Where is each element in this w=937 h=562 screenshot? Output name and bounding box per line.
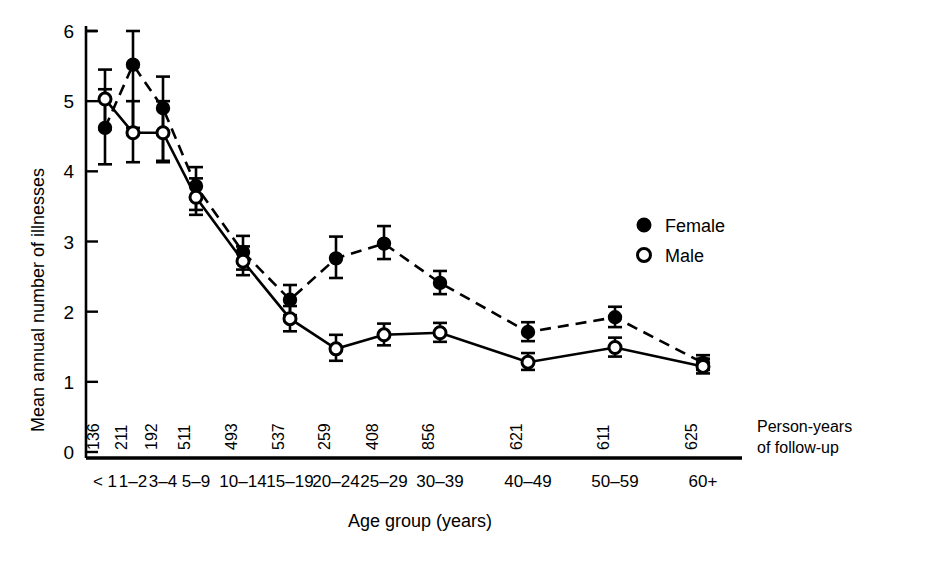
x-category-label: 60+ [689, 472, 718, 491]
x-axis-label: Age group (years) [348, 511, 492, 531]
data-point-female [609, 311, 621, 323]
x-category-label: 30–39 [416, 472, 463, 491]
x-category-label: 20–24 [312, 472, 359, 491]
data-point-female [434, 277, 446, 289]
person-years-caption-line2: of follow-up [757, 439, 839, 456]
data-point-male [284, 313, 296, 325]
x-category-label: 15–19 [266, 472, 313, 491]
data-point-female [127, 58, 139, 70]
legend-marker-male-icon [638, 249, 651, 262]
y-tick-label: 2 [63, 302, 74, 323]
y-tick-label: 6 [63, 21, 74, 42]
person-years-value: 493 [223, 423, 240, 450]
y-tick-label: 4 [63, 161, 74, 182]
person-years-value: 136 [85, 423, 102, 450]
x-category-label: < 1 [93, 472, 117, 491]
person-years-value: 625 [683, 423, 700, 450]
data-point-male [127, 127, 139, 139]
person-years-value: 856 [420, 423, 437, 450]
x-category-label: 1–2 [119, 472, 147, 491]
x-axis-category-labels: < 11–23–45–910–1415–1920–2425–2930–3940–… [93, 472, 718, 491]
data-point-female [284, 294, 296, 306]
y-axis-tick-labels: 0123456 [63, 21, 74, 463]
data-point-male [697, 360, 709, 372]
axes [86, 26, 742, 458]
legend: Female Male [638, 216, 726, 266]
data-point-female [522, 326, 534, 338]
data-point-female [157, 102, 169, 114]
person-years-value: 259 [316, 423, 333, 450]
person-years-value: 621 [508, 423, 525, 450]
data-point-female [99, 122, 111, 134]
person-years-value: 408 [364, 423, 381, 450]
data-point-male [99, 93, 111, 105]
y-axis-ticks [86, 31, 98, 452]
data-point-male [434, 327, 446, 339]
data-point-female [330, 252, 342, 264]
data-point-male [522, 356, 534, 368]
legend-marker-female-icon [638, 219, 651, 232]
x-category-label: 10–14 [219, 472, 266, 491]
person-years-value: 192 [143, 423, 160, 450]
data-point-female [378, 237, 390, 249]
x-category-label: 25–29 [360, 472, 407, 491]
x-category-label: 50–59 [591, 472, 638, 491]
person-years-value: 537 [270, 423, 287, 450]
legend-label-female: Female [665, 216, 725, 236]
x-category-label: 3–4 [149, 472, 177, 491]
legend-label-male: Male [665, 246, 704, 266]
person-years-value: 211 [113, 424, 130, 450]
illness-by-age-line-chart: Mean annual number of illnesses 0123456 … [0, 0, 937, 562]
data-point-male [157, 127, 169, 139]
y-axis-label: Mean annual number of illnesses [28, 168, 48, 432]
x-category-label: 5–9 [182, 472, 210, 491]
person-years-value: 611 [595, 424, 612, 450]
data-point-male [378, 329, 390, 341]
chart-figure: Mean annual number of illnesses 0123456 … [0, 0, 937, 562]
y-tick-label: 3 [63, 232, 74, 253]
person-years-caption-line1: Person-years [757, 418, 852, 435]
data-point-male [237, 255, 249, 267]
data-point-male [330, 343, 342, 355]
y-tick-label: 0 [63, 442, 74, 463]
data-point-male [609, 341, 621, 353]
y-tick-label: 1 [63, 372, 74, 393]
data-point-male [190, 191, 202, 203]
person-years-value: 511 [176, 424, 193, 450]
x-category-label: 40–49 [504, 472, 551, 491]
person-years-values: 136211192511493537259408856621611625 [85, 423, 700, 450]
y-tick-label: 5 [63, 91, 74, 112]
